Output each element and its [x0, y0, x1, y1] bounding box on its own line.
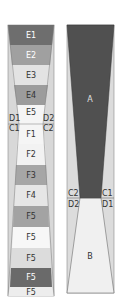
label-d2: D2 — [43, 114, 54, 123]
label-e3: E3 — [26, 71, 36, 80]
label-e1: E1 — [26, 31, 36, 40]
label-right-d2: D2 — [68, 200, 79, 209]
label-e4: E4 — [26, 91, 36, 100]
label-b: B — [87, 252, 93, 261]
diagram-canvas: E1 E2 E3 E4 E5 F1 F2 F3 F4 F5 F5 F5 F5 F… — [0, 0, 121, 303]
label-a: A — [87, 95, 93, 104]
label-f3: F3 — [26, 171, 36, 180]
right-diagram: A B C2 C1 D2 D1 — [67, 25, 114, 293]
label-f5a: F5 — [26, 212, 36, 221]
left-diagram: E1 E2 E3 E4 E5 F1 F2 F3 F4 F5 F5 F5 F5 F… — [8, 25, 54, 297]
label-right-d1: D1 — [102, 200, 113, 209]
label-right-c1: C1 — [102, 189, 113, 198]
label-f5b: F5 — [26, 233, 36, 242]
label-d1: D1 — [9, 114, 20, 123]
label-f5e: F5 — [26, 288, 36, 297]
label-c2: C2 — [43, 124, 54, 133]
label-f2: F2 — [26, 150, 36, 159]
label-f4: F4 — [26, 191, 36, 200]
label-c1: C1 — [9, 124, 20, 133]
label-f1: F1 — [26, 130, 36, 139]
label-e5: E5 — [26, 108, 36, 117]
label-e2: E2 — [26, 51, 36, 60]
label-f5c: F5 — [26, 254, 36, 263]
label-right-c2: C2 — [68, 189, 79, 198]
label-f5d: F5 — [26, 273, 36, 282]
